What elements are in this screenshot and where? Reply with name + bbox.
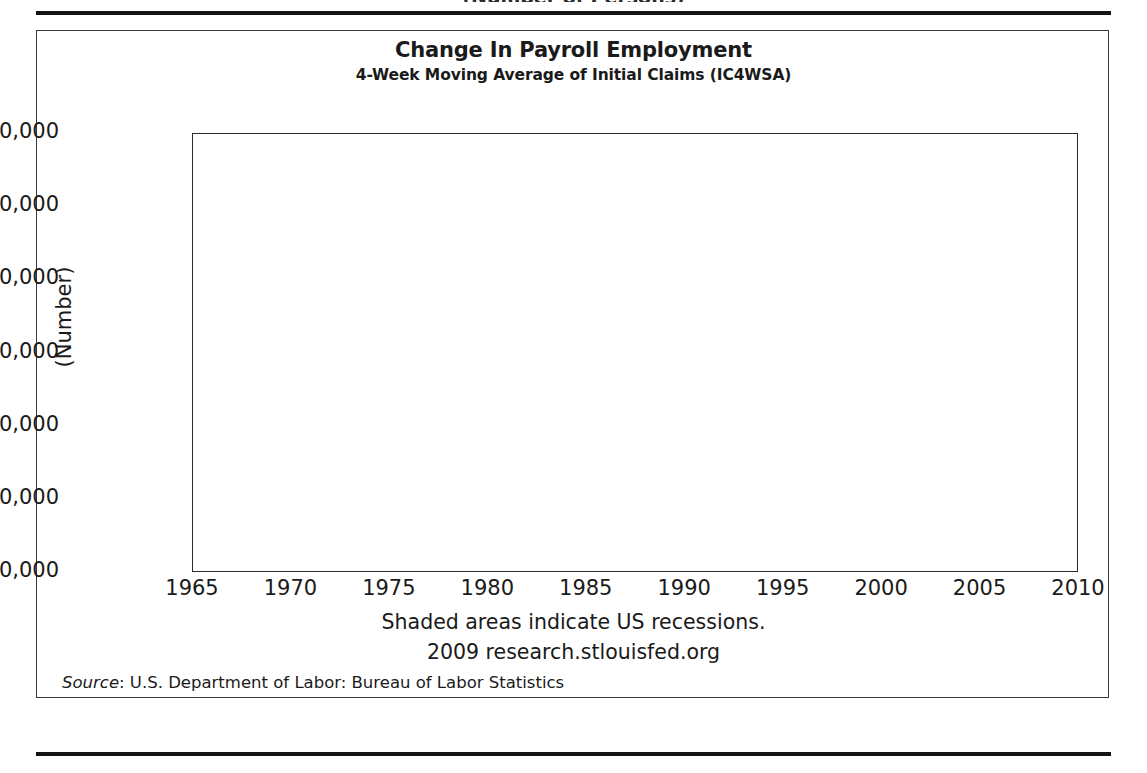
clipped-top-caption: (Number of Persons)	[0, 0, 1147, 2]
footnote-source-site: 2009 research.stlouisfed.org	[0, 640, 1147, 664]
top-horizontal-rule	[36, 11, 1111, 15]
plot-area	[192, 133, 1078, 572]
bottom-horizontal-rule	[36, 752, 1111, 756]
chart-subtitle: 4-Week Moving Average of Initial Claims …	[0, 66, 1147, 84]
y-axis-tick-label: 400,000	[0, 341, 59, 362]
y-axis-tick-label: 600,000	[0, 194, 59, 215]
figure-page: (Number of Persons) Change In Payroll Em…	[0, 0, 1147, 773]
y-axis-tick-label: 700,000	[0, 121, 59, 142]
y-axis-tick-label: 200,000	[0, 487, 59, 508]
footnote-recessions: Shaded areas indicate US recessions.	[0, 610, 1147, 634]
y-axis-label: (Number)	[52, 227, 76, 407]
y-axis-tick-label: 100,000	[0, 560, 59, 581]
source-line: Source: U.S. Department of Labor: Bureau…	[62, 673, 564, 692]
plot-frame	[192, 133, 1078, 572]
source-value: : U.S. Department of Labor: Bureau of La…	[119, 673, 564, 692]
y-axis-tick-label: 300,000	[0, 414, 59, 435]
chart-title: Change In Payroll Employment	[0, 38, 1147, 62]
y-axis-tick-label: 500,000	[0, 267, 59, 288]
x-axis-tick-label: 2010	[1018, 578, 1138, 599]
source-label: Source	[62, 673, 119, 692]
